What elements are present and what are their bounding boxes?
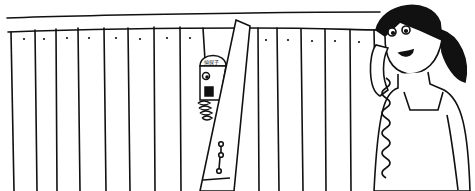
fence-plank-line: [350, 30, 351, 191]
fence-top-rail-lower: [8, 28, 385, 32]
fence-plank-line: [154, 27, 155, 191]
fence-plank-line: [56, 29, 57, 191]
fence-plank-line: [180, 27, 181, 191]
cap-text: 偵探子: [204, 59, 219, 66]
fence-plank-line: [128, 28, 130, 191]
woman: [370, 5, 470, 191]
fence-plank-line: [325, 29, 326, 191]
hand: [198, 101, 212, 120]
fence-top-rail-upper: [7, 12, 380, 18]
fence-plank-line: [11, 32, 14, 191]
fence-plank-line: [35, 30, 37, 191]
fence: [7, 12, 385, 191]
fence-plank-line: [301, 29, 303, 191]
fence-plank-line: [203, 28, 205, 60]
fence-nails: [23, 37, 360, 43]
fence-plank-line: [277, 28, 279, 191]
open-mouth: [205, 87, 213, 96]
fence-plank-line: [258, 28, 259, 191]
fence-plank-line: [104, 28, 106, 191]
illustration: 偵探子: [0, 0, 475, 191]
loose-plank: [200, 20, 250, 191]
fence-plank-line: [78, 28, 80, 191]
hair-back: [441, 30, 466, 82]
